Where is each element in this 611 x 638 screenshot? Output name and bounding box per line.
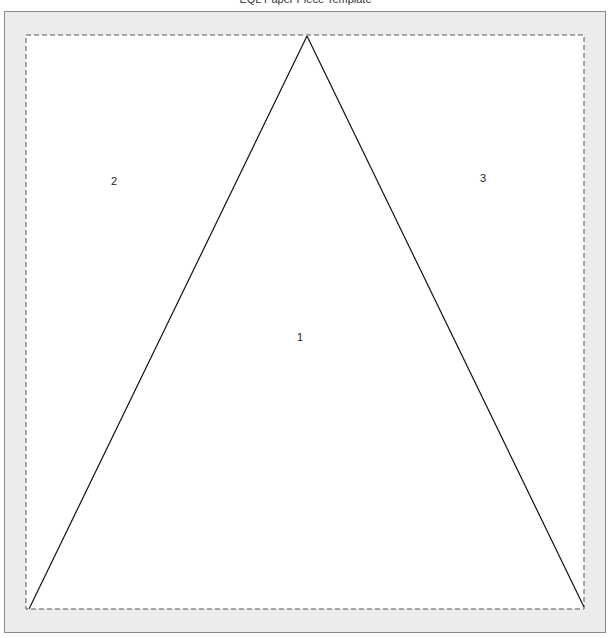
piece-label-1: 1 bbox=[297, 331, 303, 343]
piece-label-3: 3 bbox=[480, 172, 486, 184]
paper-piece-diagram bbox=[0, 0, 611, 638]
piece-area bbox=[26, 35, 584, 609]
piece-label-2: 2 bbox=[111, 175, 117, 187]
